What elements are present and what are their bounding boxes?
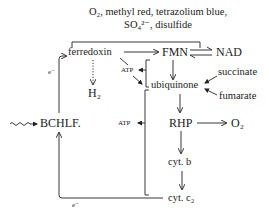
node-ubiquinone: ubiquinone bbox=[151, 80, 198, 91]
node-fmn: FMN bbox=[162, 46, 188, 58]
loop-cytc2-bchlf bbox=[59, 133, 163, 198]
acceptors-line-2: SO₄²⁻, disulfide bbox=[70, 20, 246, 31]
lower-bracket bbox=[145, 90, 149, 195]
node-bchlf: BCHLF. bbox=[40, 117, 81, 129]
node-h2: H₂ bbox=[88, 87, 101, 99]
upper-bracket bbox=[146, 60, 150, 87]
acceptors-line-1: O₂, methyl red, tetrazolium blue, bbox=[70, 7, 246, 18]
arrow-fmn-nad-forward bbox=[190, 47, 212, 50]
node-rhp: RHP bbox=[169, 117, 192, 129]
node-atp-lower: ATP bbox=[118, 120, 130, 127]
node-ferredoxin: ferredoxin bbox=[68, 47, 112, 58]
diagram-lines bbox=[0, 0, 269, 216]
node-cyt-c2: cyt. c₂ bbox=[168, 193, 194, 204]
node-atp-upper: ATP bbox=[121, 67, 133, 74]
arrow-atp-ubiquinone bbox=[133, 76, 142, 84]
label-e-bottom: e⁻ bbox=[72, 202, 79, 209]
arrow-fumarate-ubiquinone bbox=[205, 89, 217, 95]
light-wavy-arrow bbox=[10, 123, 37, 126]
node-fumarate: fumarate bbox=[219, 91, 256, 102]
label-e-left: e⁻ bbox=[48, 69, 55, 76]
node-nad: NAD bbox=[216, 46, 242, 58]
loop-bchlf-ferredoxin bbox=[59, 56, 66, 113]
node-cyt-b: cyt. b bbox=[168, 157, 191, 168]
arrow-succinate-ubiquinone bbox=[205, 76, 217, 83]
node-succinate: succinate bbox=[218, 67, 257, 78]
node-o2: O₂ bbox=[231, 117, 244, 129]
line-ferredoxin-atp bbox=[120, 58, 128, 65]
arrow-fmn-nad-back bbox=[190, 55, 212, 58]
